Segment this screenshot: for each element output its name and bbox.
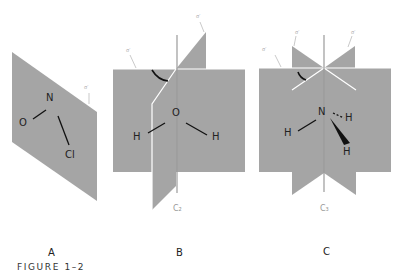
panel-label-a: A (48, 247, 55, 258)
sigma-pointer (348, 36, 352, 47)
c2-axis-label: C₂ (173, 204, 182, 213)
mirror-plane-back (113, 69, 245, 172)
mirror-plane-back-left-wedge (292, 46, 324, 68)
atom-h-left: H (133, 131, 141, 142)
panel-label-b: B (176, 247, 183, 258)
atom-h-back: H (345, 112, 353, 123)
figure-canvas (0, 0, 397, 279)
sigma-label: σ′ (295, 29, 299, 35)
sigma-pointer (200, 22, 204, 32)
sigma-label: σ′ (262, 46, 266, 52)
sigma-label: σ′ (126, 47, 130, 53)
atom-h-front: H (343, 146, 351, 157)
c3-axis-label: C₃ (320, 204, 329, 213)
atom-h-right: H (212, 131, 220, 142)
sigma-label: σ′ (84, 84, 88, 90)
atom-o: O (19, 117, 27, 128)
sigma-label: σ′ (351, 29, 355, 35)
atom-h-left: H (284, 127, 292, 138)
mirror-plane-back-right-wedge (324, 46, 355, 68)
sigma-pointer (275, 55, 281, 67)
panel-label-c: C (323, 246, 330, 257)
atom-cl: Cl (65, 149, 75, 160)
sigma-pointer (294, 36, 296, 46)
figure-caption: FIGURE 1–2 (17, 262, 85, 272)
sigma-pointer (130, 55, 136, 68)
mirror-plane-top-wedge (176, 32, 206, 69)
atom-n: N (46, 92, 53, 103)
atom-o: O (172, 107, 180, 118)
sigma-label: σ′ (196, 13, 200, 19)
atom-n: N (318, 106, 325, 117)
